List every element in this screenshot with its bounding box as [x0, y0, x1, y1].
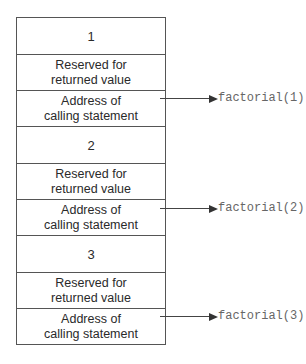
reserved-cell: Reserved forreturned value: [17, 55, 165, 91]
parameter-cell: 2: [17, 127, 165, 164]
address-cell: Address ofcalling statement: [17, 91, 165, 127]
parameter-cell: 3: [17, 236, 165, 273]
arrow-icon: [160, 98, 216, 99]
address-cell: Address ofcalling statement: [17, 309, 165, 345]
arrow-icon: [160, 208, 216, 209]
reserved-cell: Reserved forreturned value: [17, 273, 165, 309]
arrow-icon: [160, 316, 216, 317]
call-label: factorial(2): [218, 201, 304, 215]
call-stack: 1 Reserved forreturned value Address ofc…: [16, 17, 166, 345]
call-label: factorial(1): [218, 91, 304, 105]
address-cell: Address ofcalling statement: [17, 200, 165, 236]
call-label: factorial(3): [218, 309, 304, 323]
reserved-cell: Reserved forreturned value: [17, 164, 165, 200]
parameter-cell: 1: [17, 18, 165, 55]
